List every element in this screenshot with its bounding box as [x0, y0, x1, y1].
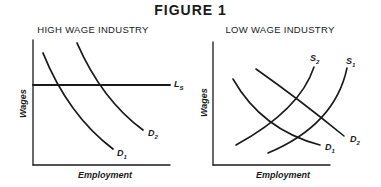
label-right-d1: D1 — [325, 142, 335, 154]
diagram-canvas — [0, 0, 381, 187]
left-x-axis-label: Employment — [78, 170, 132, 180]
label-left-ls: LS — [174, 79, 184, 91]
label-left-d1: D1 — [117, 148, 127, 160]
label-right-s1: S1 — [346, 56, 355, 68]
label-left-d2: D2 — [148, 128, 158, 140]
left-d1-curve — [43, 53, 113, 149]
right-y-axis-label: Wages — [199, 88, 209, 117]
left-y-axis-label: Wages — [18, 89, 28, 118]
right-d1-curve — [233, 79, 320, 145]
label-right-d2: D2 — [350, 134, 360, 146]
right-x-axis-label: Employment — [256, 170, 310, 180]
label-right-s2: S2 — [310, 53, 319, 65]
right-d2-curve — [256, 69, 344, 136]
left-d2-curve — [77, 43, 143, 130]
